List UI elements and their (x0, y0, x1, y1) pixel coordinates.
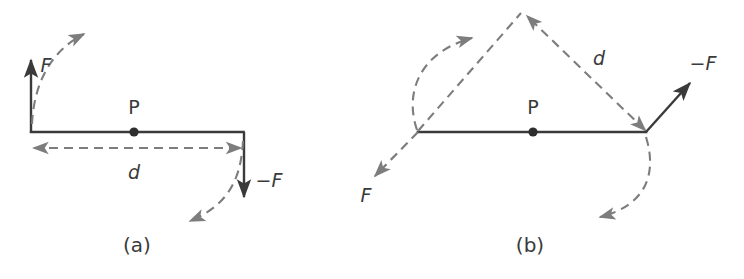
force-couple-diagram (0, 0, 744, 279)
panel-b-rotation-arc-upper (413, 38, 472, 130)
panel-a (31, 34, 244, 221)
panel-b-caption: (b) (516, 235, 544, 255)
panel-b-pivot-dot (528, 127, 537, 136)
panel-a-caption: (a) (123, 235, 151, 255)
panel-b-distance-d-arrow (527, 16, 645, 130)
panel-b-force-F-arrow (375, 132, 418, 176)
panel-a-rotation-arc-upper (32, 34, 84, 124)
panel-b-force-F-label: F (361, 186, 372, 205)
panel-a-pivot-dot (129, 127, 138, 136)
panel-a-pivot-label: P (128, 98, 139, 117)
panel-b-distance-d-label: d (593, 49, 605, 68)
panel-a-distance-d-label: d (128, 163, 140, 182)
panel-a-force-F-label: F (41, 56, 52, 75)
panel-b-rotation-arc-lower (600, 137, 650, 217)
panel-b-construction-line (418, 13, 521, 131)
panel-b-force-minusF-arrow (646, 83, 690, 132)
panel-b-force-minusF-label: −F (690, 54, 717, 73)
figure-root: F −F d P (a) F −F d P (b) (0, 0, 744, 279)
panel-b-pivot-label: P (527, 98, 538, 117)
panel-a-rotation-arc-lower (190, 141, 243, 221)
panel-a-force-minusF-label: −F (256, 171, 283, 190)
